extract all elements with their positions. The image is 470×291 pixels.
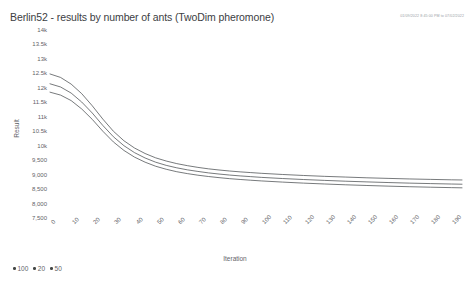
y-axis-tick-label: 10.5k [3,128,47,134]
y-axis-tick-label: 11.5k [3,99,47,105]
x-axis-label: Iteration [0,255,470,262]
legend-marker-icon [50,267,53,270]
y-axis-tick-label: 7,500 [3,215,47,221]
chart-title: Berlin52 - results by number of ants (Tw… [10,11,274,23]
y-axis-tick-label: 11k [3,114,47,120]
x-axis-tick-label: 0 [50,219,57,226]
legend-label: 20 [38,265,45,272]
series-line-50 [50,92,462,188]
plot-area [50,30,462,218]
y-axis-tick-label: 13.5k [3,41,47,47]
chart-container: Berlin52 - results by number of ants (Tw… [0,0,470,291]
y-axis-tick-label: 12.5k [3,70,47,76]
y-axis-tick-label: 8,000 [3,201,47,207]
y-axis-tick-label: 9,500 [3,157,47,163]
legend-item-20[interactable]: 20 [33,265,45,272]
legend-label: 100 [18,265,29,272]
x-axis-ticks: 0102030405060708090100110120130140150160… [50,221,462,251]
y-axis-tick-label: 8,500 [3,186,47,192]
y-axis-ticks: 7,5008,0008,5009,0009,50010k10.5k11k11.5… [0,30,47,218]
legend-item-50[interactable]: 50 [50,265,62,272]
y-axis-tick-label: 9,000 [3,172,47,178]
series-line-100 [50,74,462,180]
chart-legend: 1002050 [13,265,62,272]
series-line-20 [50,84,462,184]
y-axis-tick-label: 13k [3,56,47,62]
y-axis-tick-label: 10k [3,143,47,149]
legend-item-100[interactable]: 100 [13,265,28,272]
y-axis-tick-label: 14k [3,27,47,33]
legend-marker-icon [13,267,16,270]
chart-timestamp: 01/09/2022 8:45:00 PM to 07/02/2022 [400,14,464,18]
legend-label: 50 [55,265,62,272]
legend-marker-icon [33,267,36,270]
y-axis-tick-label: 12k [3,85,47,91]
series-lines [50,30,462,218]
